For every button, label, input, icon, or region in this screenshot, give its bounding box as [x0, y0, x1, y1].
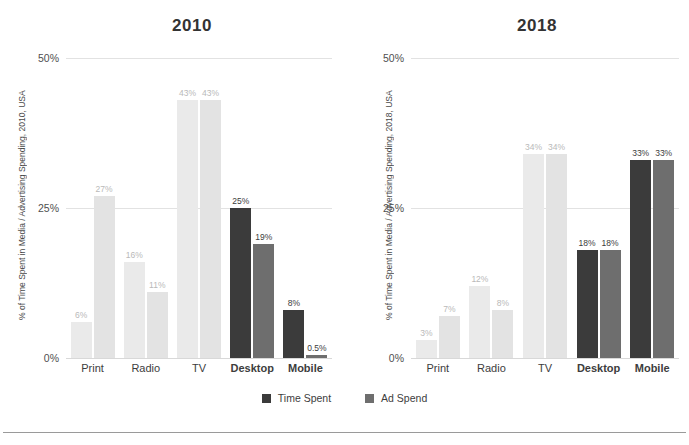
bar-value-mobile-ad-spend: 0.5% — [307, 343, 326, 353]
bar-value-desktop-ad-spend: 19% — [255, 232, 272, 242]
bar-wrap-tv-ad-spend: 34% — [546, 58, 567, 358]
figure-canvas: 2010 % of Time Spent in Media / Advertis… — [0, 0, 689, 445]
bar-tv-time-spent[interactable]: 34% — [523, 154, 544, 358]
x-label-print: Print — [66, 362, 119, 374]
bar-value-print-ad-spend: 27% — [96, 184, 113, 194]
bar-wrap-tv-time-spent: 34% — [523, 58, 544, 358]
bar-groups-2010: 6% 27% 16% — [66, 58, 332, 358]
bar-wrap-radio-ad-spend: 11% — [147, 58, 168, 358]
bar-group-mobile: 33% 33% — [625, 58, 679, 358]
bar-value-print-time-spent: 6% — [75, 310, 87, 320]
bar-value-print-ad-spend: 7% — [443, 304, 455, 314]
bar-wrap-tv-time-spent: 43% — [177, 58, 198, 358]
legend-item-time-spent[interactable]: Time Spent — [262, 392, 331, 404]
bar-wrap-radio-time-spent: 12% — [469, 58, 490, 358]
bottom-divider — [3, 432, 686, 433]
bar-group-print: 6% 27% — [66, 58, 119, 358]
bar-print-ad-spend[interactable]: 27% — [94, 196, 115, 358]
bar-value-mobile-time-spent: 33% — [632, 148, 649, 158]
bar-value-mobile-time-spent: 8% — [288, 298, 300, 308]
bar-wrap-desktop-time-spent: 25% — [230, 58, 251, 358]
y-tick-label-0: 0% — [44, 352, 59, 364]
bar-value-print-time-spent: 3% — [420, 328, 432, 338]
legend-swatch-icon-ad-spend — [365, 394, 374, 403]
bar-value-tv-ad-spend: 34% — [548, 142, 565, 152]
bar-wrap-print-time-spent: 6% — [71, 58, 92, 358]
bar-tv-time-spent[interactable]: 43% — [177, 100, 198, 358]
bar-wrap-radio-ad-spend: 8% — [492, 58, 513, 358]
bar-mobile-ad-spend[interactable]: 33% — [653, 160, 674, 358]
bar-radio-ad-spend[interactable]: 11% — [147, 292, 168, 358]
y-tick-label-25: 25% — [383, 202, 404, 214]
bar-radio-ad-spend[interactable]: 8% — [492, 310, 513, 358]
bar-wrap-desktop-time-spent: 18% — [577, 58, 598, 358]
bar-value-tv-time-spent: 43% — [179, 88, 196, 98]
bar-radio-time-spent[interactable]: 16% — [124, 262, 145, 358]
bar-group-tv: 43% 43% — [172, 58, 225, 358]
bar-wrap-mobile-ad-spend: 0.5% — [306, 58, 327, 358]
bar-wrap-mobile-time-spent: 33% — [630, 58, 651, 358]
legend-swatch-icon-time-spent — [262, 394, 271, 403]
y-axis-title-2010: % of Time Spent in Media / Advertising S… — [14, 55, 30, 355]
bar-desktop-time-spent[interactable]: 25% — [230, 208, 251, 358]
bar-value-tv-ad-spend: 43% — [202, 88, 219, 98]
bar-wrap-print-ad-spend: 7% — [439, 58, 460, 358]
bar-value-tv-time-spent: 34% — [525, 142, 542, 152]
plot-area-2010: 50% 25% 0% 6% 27% — [66, 58, 332, 358]
bar-group-desktop: 18% 18% — [572, 58, 626, 358]
x-label-mobile: Mobile — [625, 362, 679, 374]
bar-wrap-desktop-ad-spend: 19% — [253, 58, 274, 358]
legend-label-time-spent: Time Spent — [278, 392, 331, 404]
bar-tv-ad-spend[interactable]: 34% — [546, 154, 567, 358]
bar-group-tv: 34% 34% — [518, 58, 572, 358]
chart-title-2010: 2010 — [0, 16, 344, 36]
x-label-tv: TV — [172, 362, 225, 374]
bar-wrap-desktop-ad-spend: 18% — [600, 58, 621, 358]
bar-wrap-mobile-ad-spend: 33% — [653, 58, 674, 358]
legend-label-ad-spend: Ad Spend — [381, 392, 427, 404]
bar-tv-ad-spend[interactable]: 43% — [200, 100, 221, 358]
bar-mobile-time-spent[interactable]: 33% — [630, 160, 651, 358]
bar-mobile-ad-spend[interactable]: 0.5% — [306, 355, 327, 358]
chart-title-2018: 2018 — [345, 16, 689, 36]
bar-print-time-spent[interactable]: 6% — [71, 322, 92, 358]
bar-value-radio-time-spent: 12% — [471, 274, 488, 284]
bar-value-mobile-ad-spend: 33% — [655, 148, 672, 158]
x-label-radio: Radio — [465, 362, 519, 374]
bar-mobile-time-spent[interactable]: 8% — [283, 310, 304, 358]
y-tick-label-0: 0% — [389, 352, 404, 364]
bar-desktop-ad-spend[interactable]: 19% — [253, 244, 274, 358]
bar-wrap-radio-time-spent: 16% — [124, 58, 145, 358]
bar-group-print: 3% 7% — [411, 58, 465, 358]
gridline-0: 0% — [411, 358, 679, 359]
bar-value-radio-time-spent: 16% — [126, 250, 143, 260]
bar-value-radio-ad-spend: 11% — [149, 280, 165, 290]
bar-group-radio: 16% 11% — [119, 58, 172, 358]
x-axis-labels-2018: Print Radio TV Desktop Mobile — [411, 362, 679, 374]
bar-print-ad-spend[interactable]: 7% — [439, 316, 460, 358]
x-label-mobile: Mobile — [279, 362, 332, 374]
x-label-print: Print — [411, 362, 465, 374]
x-label-desktop: Desktop — [572, 362, 626, 374]
bar-group-desktop: 25% 19% — [226, 58, 279, 358]
chart-panel-2018: 2018 % of Time Spent in Media / Advertis… — [345, 0, 689, 395]
gridline-0: 0% — [66, 358, 332, 359]
x-label-radio: Radio — [119, 362, 172, 374]
bar-radio-time-spent[interactable]: 12% — [469, 286, 490, 358]
bar-print-time-spent[interactable]: 3% — [416, 340, 437, 358]
chart-legend: Time Spent Ad Spend — [0, 392, 689, 404]
bar-wrap-tv-ad-spend: 43% — [200, 58, 221, 358]
chart-panel-2010: 2010 % of Time Spent in Media / Advertis… — [0, 0, 344, 395]
bar-desktop-time-spent[interactable]: 18% — [577, 250, 598, 358]
bar-desktop-ad-spend[interactable]: 18% — [600, 250, 621, 358]
x-label-tv: TV — [518, 362, 572, 374]
x-axis-labels-2010: Print Radio TV Desktop Mobile — [66, 362, 332, 374]
legend-item-ad-spend[interactable]: Ad Spend — [365, 392, 427, 404]
bar-value-radio-ad-spend: 8% — [497, 298, 509, 308]
bar-wrap-print-ad-spend: 27% — [94, 58, 115, 358]
bar-value-desktop-time-spent: 25% — [232, 196, 249, 206]
bar-group-mobile: 8% 0.5% — [279, 58, 332, 358]
bar-value-desktop-time-spent: 18% — [579, 238, 596, 248]
bar-groups-2018: 3% 7% 12% — [411, 58, 679, 358]
y-tick-label-50: 50% — [383, 52, 404, 64]
